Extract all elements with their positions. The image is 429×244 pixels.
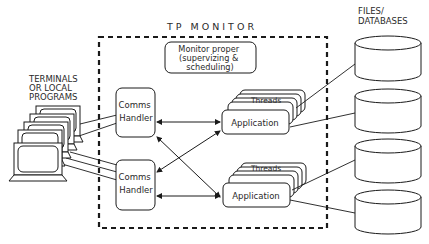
- terminals-stack: [9, 106, 83, 181]
- databases: [355, 36, 421, 234]
- terminals-label: TERMINALS OR LOCAL PROGRAMS: [28, 74, 80, 102]
- application-1-stack: Threads Application: [222, 90, 305, 134]
- tp-monitor-diagram: TP MONITOR Monitor proper (supervizing &…: [0, 0, 429, 244]
- terminal-icon: [9, 143, 67, 181]
- handler-application-arrows: [157, 122, 220, 197]
- tp-monitor-title: TP MONITOR: [166, 21, 257, 32]
- monitor-proper-box: Monitor proper (supervizing & scheduling…: [165, 42, 256, 73]
- database-icon: [355, 139, 421, 183]
- threads-label: Threads: [250, 96, 281, 105]
- monitor-proper-line: scheduling): [186, 62, 234, 72]
- threads-label: Threads: [250, 164, 281, 173]
- database-icon: [355, 36, 421, 81]
- svg-text:Monitor proper (superviz: Monitor proper (supervizing & scheduling…: [178, 44, 241, 72]
- application-label: Application: [232, 191, 280, 201]
- database-icon: [355, 89, 421, 133]
- application-label: Application: [231, 118, 279, 128]
- files-databases-label: FILES/ DATABASES: [358, 6, 408, 26]
- database-links: [290, 64, 355, 213]
- database-icon: [355, 190, 421, 234]
- comms-handler-1: Comms Handler: [116, 88, 155, 137]
- comms-handler-2: Comms Handler: [116, 160, 155, 210]
